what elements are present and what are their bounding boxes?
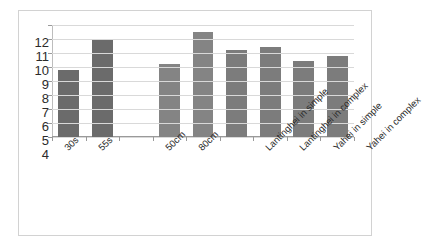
bar [159, 64, 180, 137]
gridline [52, 123, 354, 124]
gridline [52, 81, 354, 82]
y-axis-tick-label: 4 [23, 150, 49, 160]
y-axis-tick-label: 7 [23, 108, 49, 118]
y-axis-tick-mark [48, 53, 52, 54]
y-axis-tick-mark [48, 109, 52, 110]
y-axis-tick-label: 6 [23, 122, 49, 132]
gridline [52, 67, 354, 68]
chart-plot-wrapper: 121110987654 30s55s50cm80cmLantinghei in… [19, 11, 373, 237]
y-axis-tick-mark [48, 25, 52, 26]
gridline [52, 25, 354, 26]
y-axis-tick-label: 5 [23, 136, 49, 146]
y-axis-tick-mark [48, 39, 52, 40]
gridline [52, 53, 354, 54]
gridline [52, 95, 354, 96]
y-axis-tick-labels: 121110987654 [23, 29, 49, 137]
bar [193, 32, 214, 137]
gridline [52, 39, 354, 40]
plot-area [52, 25, 354, 137]
y-axis-tick-mark [48, 81, 52, 82]
bar [58, 70, 79, 137]
chart-frame: 121110987654 30s55s50cm80cmLantinghei in… [18, 10, 372, 236]
y-axis-tick-label: 10 [23, 66, 49, 76]
y-axis-tick-label: 9 [23, 80, 49, 90]
y-axis-tick-mark [48, 123, 52, 124]
y-axis-tick-label: 11 [23, 52, 49, 62]
y-axis-tick-label: 8 [23, 94, 49, 104]
y-axis-tick-mark [48, 95, 52, 96]
y-axis-tick-mark [48, 67, 52, 68]
y-axis-tick-label: 12 [23, 38, 49, 48]
x-axis-tick-labels: 30s55s50cm80cmLantinghei in simpleLantin… [52, 139, 382, 237]
